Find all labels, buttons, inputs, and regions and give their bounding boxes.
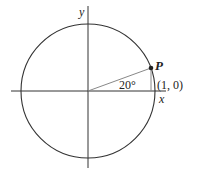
unit-circle-diagram: y x P 20° (1, 0) [0,0,200,174]
point-p-label: P [155,58,164,73]
y-axis-label: y [78,5,85,19]
reference-point-label: (1, 0) [157,78,183,92]
x-axis-label: x [158,92,165,106]
point-p-marker [149,66,154,71]
angle-label: 20° [119,78,136,92]
